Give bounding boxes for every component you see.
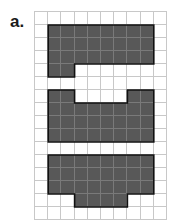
empty-cell <box>141 207 154 220</box>
empty-cell <box>141 194 154 207</box>
empty-cell <box>101 77 114 90</box>
filled-cell <box>114 194 127 207</box>
empty-cell <box>88 207 101 220</box>
filled-cell <box>88 116 101 129</box>
filled-cell <box>75 51 88 64</box>
empty-cell <box>141 12 154 25</box>
filled-cell <box>61 90 74 103</box>
filled-cell <box>101 116 114 129</box>
filled-cell <box>75 116 88 129</box>
filled-cell <box>48 168 61 181</box>
empty-cell <box>35 168 48 181</box>
filled-cell <box>88 25 101 38</box>
empty-cell <box>154 155 167 168</box>
empty-cell <box>35 181 48 194</box>
filled-cell <box>141 51 154 64</box>
empty-cell <box>127 194 140 207</box>
filled-cell <box>141 155 154 168</box>
empty-cell <box>127 77 140 90</box>
empty-cell <box>154 38 167 51</box>
filled-cell <box>61 103 74 116</box>
empty-cell <box>141 77 154 90</box>
filled-cell <box>88 181 101 194</box>
empty-cell <box>35 64 48 77</box>
filled-cell <box>127 38 140 51</box>
empty-cell <box>61 194 74 207</box>
filled-cell <box>127 25 140 38</box>
filled-cell <box>88 51 101 64</box>
empty-cell <box>154 77 167 90</box>
empty-cell <box>154 116 167 129</box>
filled-cell <box>61 129 74 142</box>
filled-cell <box>75 168 88 181</box>
empty-cell <box>61 77 74 90</box>
empty-cell <box>35 90 48 103</box>
filled-cell <box>101 168 114 181</box>
empty-cell <box>154 142 167 155</box>
filled-cell <box>127 181 140 194</box>
square-grid <box>35 12 167 220</box>
empty-cell <box>61 12 74 25</box>
filled-cell <box>61 116 74 129</box>
filled-cell <box>101 103 114 116</box>
empty-cell <box>75 142 88 155</box>
empty-cell <box>88 90 101 103</box>
empty-cell <box>35 194 48 207</box>
filled-cell <box>114 155 127 168</box>
filled-cell <box>48 64 61 77</box>
empty-cell <box>114 77 127 90</box>
filled-cell <box>88 194 101 207</box>
filled-cell <box>101 181 114 194</box>
empty-cell <box>114 142 127 155</box>
empty-cell <box>35 51 48 64</box>
empty-cell <box>101 64 114 77</box>
filled-cell <box>141 129 154 142</box>
filled-cell <box>141 116 154 129</box>
empty-cell <box>61 207 74 220</box>
empty-cell <box>35 77 48 90</box>
filled-cell <box>48 116 61 129</box>
empty-cell <box>35 155 48 168</box>
empty-cell <box>154 12 167 25</box>
filled-cell <box>114 181 127 194</box>
filled-cell <box>88 129 101 142</box>
filled-cell <box>61 51 74 64</box>
empty-cell <box>154 90 167 103</box>
figure-label: a. <box>10 12 24 32</box>
filled-cell <box>61 64 74 77</box>
filled-cell <box>101 51 114 64</box>
filled-cell <box>127 129 140 142</box>
filled-cell <box>48 129 61 142</box>
filled-cell <box>75 103 88 116</box>
empty-cell <box>35 38 48 51</box>
empty-cell <box>141 142 154 155</box>
empty-cell <box>88 12 101 25</box>
empty-cell <box>127 64 140 77</box>
filled-cell <box>114 129 127 142</box>
filled-cell <box>127 155 140 168</box>
empty-cell <box>154 103 167 116</box>
filled-cell <box>101 129 114 142</box>
filled-cell <box>48 38 61 51</box>
empty-cell <box>75 12 88 25</box>
empty-cell <box>127 207 140 220</box>
empty-cell <box>35 129 48 142</box>
filled-cell <box>48 103 61 116</box>
filled-cell <box>61 38 74 51</box>
empty-cell <box>75 207 88 220</box>
filled-cell <box>101 194 114 207</box>
filled-cell <box>141 90 154 103</box>
empty-cell <box>88 142 101 155</box>
empty-cell <box>48 207 61 220</box>
filled-cell <box>114 103 127 116</box>
empty-cell <box>35 207 48 220</box>
filled-cell <box>75 194 88 207</box>
filled-cell <box>48 90 61 103</box>
empty-cell <box>154 181 167 194</box>
empty-cell <box>35 142 48 155</box>
empty-cell <box>101 90 114 103</box>
empty-cell <box>114 64 127 77</box>
empty-cell <box>48 12 61 25</box>
filled-cell <box>61 168 74 181</box>
empty-cell <box>35 103 48 116</box>
